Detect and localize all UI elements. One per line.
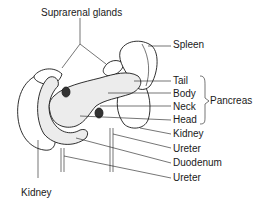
pancreas-brace bbox=[200, 76, 209, 124]
label-kidney-right: Kidney bbox=[173, 128, 204, 139]
label-suprarenal-glands: Suprarenal glands bbox=[41, 7, 122, 18]
leader-suprarenal bbox=[62, 18, 106, 68]
label-ureter-upper: Ureter bbox=[173, 143, 201, 154]
label-ureter-lower: Ureter bbox=[173, 172, 201, 183]
label-spleen: Spleen bbox=[173, 39, 204, 50]
label-neck: Neck bbox=[173, 101, 197, 112]
vessel-left-ring bbox=[62, 87, 70, 97]
label-pancreas: Pancreas bbox=[210, 95, 252, 106]
label-head: Head bbox=[173, 114, 197, 125]
leader-kidney-right bbox=[140, 128, 171, 134]
label-tail: Tail bbox=[173, 75, 188, 86]
anatomy-diagram: Suprarenal glands Spleen Tail Body Neck … bbox=[0, 0, 261, 204]
leader-duodenum bbox=[76, 138, 171, 163]
leader-ureter-upper bbox=[113, 134, 171, 148]
label-body: Body bbox=[173, 88, 196, 99]
diagram-canvas: Suprarenal glands Spleen Tail Body Neck … bbox=[0, 0, 261, 204]
leader-ureter-lower bbox=[64, 156, 171, 178]
left-ureter-shape bbox=[61, 148, 64, 172]
label-duodenum: Duodenum bbox=[173, 157, 222, 168]
label-kidney-left: Kidney bbox=[21, 187, 52, 198]
